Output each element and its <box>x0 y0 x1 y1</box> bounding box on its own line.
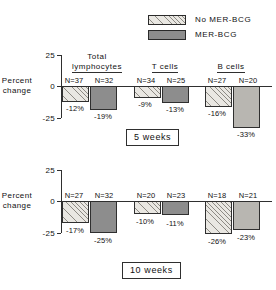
n-label-bottom-bcells-no: N=18 <box>203 191 231 200</box>
y-axis-label-25-top: 25 <box>36 51 55 60</box>
time-label-10-weeks: 10 weeks <box>122 262 181 279</box>
n-label-top-tcells-no: N=34 <box>132 76 160 85</box>
value-label-top-tcells-mer: -13% <box>161 105 189 114</box>
value-label-top-tcells-no: -9% <box>133 100 157 109</box>
time-label-5-weeks: 5 weeks <box>126 129 179 146</box>
y-axis-label-0-bottom: 0 <box>36 197 55 206</box>
y-tick-25-top <box>57 55 61 56</box>
bar-top-bcells-no <box>205 86 232 107</box>
n-label-top-bcells-mer: N=20 <box>234 76 262 85</box>
bar-bottom-bcells-no <box>205 201 232 234</box>
group-title-t-cells-top: T cells <box>139 62 191 73</box>
chart-legend: No MER-BCG MER-BCG <box>148 14 251 44</box>
figure-bar-chart-percent-change: No MER-BCG MER-BCG 25 0 -25 Percent chan… <box>0 0 276 290</box>
legend-label-no-mer-bcg: No MER-BCG <box>195 15 251 24</box>
legend-swatch-hatched-icon <box>148 15 186 25</box>
n-label-top-total-mer: N=32 <box>90 76 118 85</box>
group-title-t-cells-text-top: T cells <box>152 62 178 73</box>
y-axis-title-line1-top: Percent <box>2 76 32 85</box>
legend-entry-mer-bcg: MER-BCG <box>148 29 251 40</box>
y-axis-label-neg25-bottom: -25 <box>32 229 55 238</box>
value-label-bottom-tcells-mer: -11% <box>161 219 189 228</box>
group-title-total-lymphocytes-top: Total lymphocytes <box>64 52 130 73</box>
legend-label-mer-bcg: MER-BCG <box>195 30 237 39</box>
group-title-b-cells-top: B cells <box>205 62 257 73</box>
legend-swatch-solid-icon <box>148 30 186 40</box>
group-title-total-line1-top: Total <box>87 52 106 61</box>
y-tick-25-bottom <box>57 170 61 171</box>
bar-top-total-mer <box>90 86 117 110</box>
value-label-top-bcells-mer: -33% <box>232 130 260 139</box>
y-axis-title-bottom: Percent change <box>0 191 34 211</box>
n-label-top-total-no: N=37 <box>60 76 88 85</box>
bar-bottom-total-no <box>62 201 89 223</box>
group-title-b-cells-text-top: B cells <box>217 62 244 73</box>
bar-top-bcells-mer <box>233 86 260 128</box>
y-axis-label-0-top: 0 <box>36 82 55 91</box>
n-label-bottom-total-mer: N=32 <box>90 191 118 200</box>
y-axis-title-line2-bottom: change <box>3 201 32 210</box>
bar-top-total-no <box>62 86 89 102</box>
value-label-top-total-mer: -19% <box>89 112 117 121</box>
bar-top-tcells-mer <box>162 86 189 103</box>
value-label-bottom-total-mer: -25% <box>89 236 117 245</box>
y-axis-title-top: Percent change <box>0 76 34 96</box>
y-axis-title-line2-top: change <box>3 86 32 95</box>
bar-bottom-tcells-no <box>134 201 161 214</box>
y-tick-neg25-top <box>57 118 61 119</box>
value-label-bottom-total-no: -17% <box>61 226 89 235</box>
group-title-total-line2-top: lymphocytes <box>72 62 122 73</box>
n-label-bottom-total-no: N=27 <box>60 191 88 200</box>
n-label-bottom-tcells-no: N=20 <box>132 191 160 200</box>
value-label-bottom-bcells-mer: -23% <box>232 233 260 242</box>
value-label-top-total-no: -12% <box>61 104 89 113</box>
value-label-top-bcells-no: -16% <box>203 109 231 118</box>
y-axis-title-line1-bottom: Percent <box>2 191 32 200</box>
n-label-top-tcells-mer: N=25 <box>162 76 190 85</box>
bar-bottom-tcells-mer <box>162 201 189 215</box>
bar-top-tcells-no <box>134 86 161 98</box>
n-label-top-bcells-no: N=27 <box>203 76 231 85</box>
legend-entry-no-mer-bcg: No MER-BCG <box>148 14 251 25</box>
value-label-bottom-tcells-no: -10% <box>131 217 159 226</box>
value-label-bottom-bcells-no: -26% <box>203 237 231 246</box>
n-label-bottom-tcells-mer: N=23 <box>162 191 190 200</box>
bar-bottom-bcells-mer <box>233 201 260 230</box>
n-label-bottom-bcells-mer: N=21 <box>234 191 262 200</box>
y-axis-label-neg25-top: -25 <box>32 114 55 123</box>
y-axis-label-25-bottom: 25 <box>36 166 55 175</box>
bar-bottom-total-mer <box>90 201 117 233</box>
